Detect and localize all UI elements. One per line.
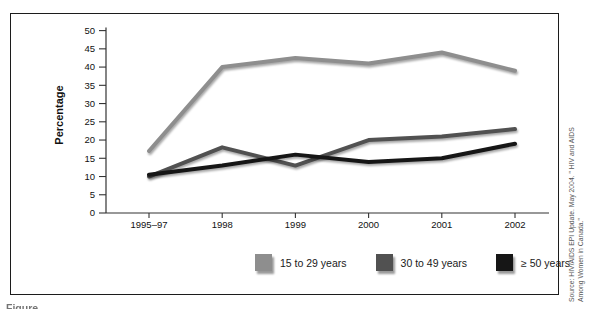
y-tick-label: 10 [84, 171, 95, 182]
y-tick-label: 20 [84, 134, 95, 145]
y-tick-label: 50 [84, 25, 95, 36]
legend-item-30-49: 30 to 49 years [376, 254, 468, 271]
y-tick-label: 5 [90, 189, 95, 200]
x-tick-label: 2001 [431, 219, 452, 230]
legend-label-15-29: 15 to 29 years [280, 257, 347, 269]
legend: 15 to 29 years 30 to 49 years ≥ 50 years [255, 254, 570, 271]
y-tick-label: 15 [84, 153, 95, 164]
legend-label-50-plus: ≥ 50 years [521, 257, 570, 269]
legend-swatch-30-49-icon [376, 254, 393, 271]
y-tick-label: 40 [84, 61, 95, 72]
x-tick-label: 1998 [212, 219, 233, 230]
series-line-2 [149, 144, 515, 175]
legend-swatch-50-plus-icon [496, 254, 513, 271]
figure-frame: Percentage051015202530354045501995–97199… [10, 13, 559, 295]
source-citation-line1: Source: HIV/AIDS EPI Update. May 2004. "… [568, 80, 577, 302]
legend-item-15-29: 15 to 29 years [255, 254, 347, 271]
y-tick-label: 25 [84, 116, 95, 127]
x-tick-label: 2002 [504, 219, 525, 230]
y-axis-title: Percentage [53, 85, 65, 144]
x-tick-label: 2000 [358, 219, 379, 230]
y-tick-label: 30 [84, 98, 95, 109]
source-citation: Source: HIV/AIDS EPI Update. May 2004. "… [568, 80, 585, 302]
x-tick-label: 1995–97 [131, 219, 168, 230]
y-tick-label: 0 [90, 207, 95, 218]
y-tick-label: 45 [84, 43, 95, 54]
x-tick-label: 1999 [285, 219, 306, 230]
y-tick-label: 35 [84, 80, 95, 91]
legend-swatch-15-29-icon [255, 254, 272, 271]
figure-caption-cutoff: Figure [6, 302, 38, 309]
source-citation-line2: Among Women in Canada." [577, 80, 586, 302]
legend-label-30-49: 30 to 49 years [401, 257, 468, 269]
legend-item-50-plus: ≥ 50 years [496, 254, 570, 271]
